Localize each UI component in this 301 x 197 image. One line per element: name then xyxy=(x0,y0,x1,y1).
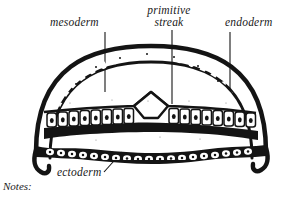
cell-row-left xyxy=(47,109,134,128)
cell-row-right xyxy=(169,109,256,128)
embryo-cross-section-diagram xyxy=(0,0,301,197)
columnar-cell-row xyxy=(44,92,258,140)
label-primitive-streak-line1: primitive xyxy=(147,4,190,16)
primitive-streak-notch xyxy=(134,92,168,118)
label-endoderm: endoderm xyxy=(225,16,273,28)
label-primitive-streak: primitive streak xyxy=(138,4,200,28)
label-mesoderm: mesoderm xyxy=(50,16,99,28)
figure-page: mesoderm primitive streak endoderm ectod… xyxy=(0,0,301,197)
label-ectoderm: ectoderm xyxy=(57,166,101,178)
ectoderm-band xyxy=(36,145,266,164)
notes-caption: Notes: xyxy=(3,180,32,192)
label-primitive-streak-line2: streak xyxy=(155,16,184,28)
